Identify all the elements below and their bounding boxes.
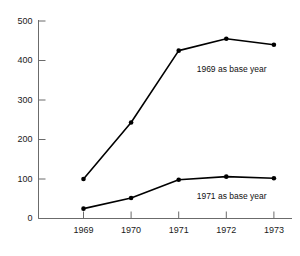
chart-container: 0100200300400500 19691970197119721973 19… [0, 0, 300, 256]
y-axis-tick-label: 200 [0, 135, 33, 144]
data-point-marker [272, 42, 277, 47]
x-axis-tick-label: 1969 [62, 226, 106, 235]
data-point-marker [129, 120, 134, 125]
y-axis-tick-label: 400 [0, 56, 33, 65]
series-layer [81, 36, 276, 210]
y-axis-tick-label: 0 [0, 214, 33, 223]
data-point-marker [129, 196, 134, 201]
y-axis-tick-label: 300 [0, 96, 33, 105]
data-point-marker [224, 174, 229, 179]
axis-lines [39, 20, 293, 219]
chart-plot-area [0, 0, 300, 256]
x-axis-tick-label: 1971 [157, 226, 201, 235]
y-axis-tick-label: 500 [0, 17, 33, 26]
series-annotation-1969-base: 1969 as base year [197, 65, 267, 74]
x-axis-tick-label: 1970 [109, 226, 153, 235]
data-point-marker [81, 177, 86, 182]
data-point-marker [224, 36, 229, 41]
data-point-marker [176, 48, 181, 53]
data-point-marker [176, 177, 181, 182]
data-point-marker [81, 206, 86, 211]
y-axis-ticks [39, 21, 46, 219]
series-annotation-1971-base: 1971 as base year [197, 192, 267, 201]
y-axis-tick-label: 100 [0, 175, 33, 184]
x-axis-ticks [84, 212, 274, 219]
x-axis-tick-label: 1973 [252, 226, 296, 235]
data-point-marker [272, 176, 277, 181]
series-line-1 [84, 39, 274, 179]
x-axis-tick-label: 1972 [204, 226, 248, 235]
